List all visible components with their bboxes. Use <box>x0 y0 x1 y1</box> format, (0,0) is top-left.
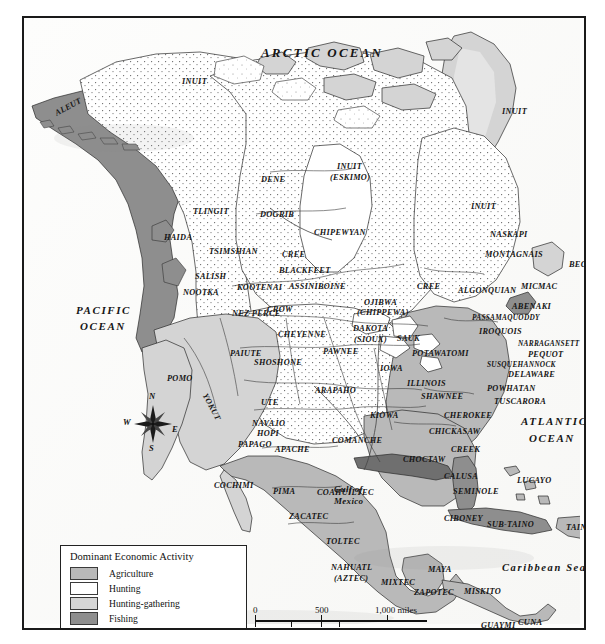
legend-label-hunting: Hunting <box>109 583 140 594</box>
legend-item-agriculture: Agriculture <box>70 566 246 580</box>
scale-km-tick-500: 500 <box>285 629 299 630</box>
scale-tick-km-500 <box>291 621 292 627</box>
compass-east-label: E <box>172 424 178 434</box>
scale-km-label: 1,000 kilometers <box>327 629 388 630</box>
scale-rule <box>255 620 427 622</box>
scale-tick-mi-1000 <box>387 615 388 621</box>
legend-swatch-agriculture <box>70 567 98 580</box>
legend-label-fishing: Fishing <box>109 613 138 624</box>
legend-label-hunting-gathering: Hunting-gathering <box>109 598 180 609</box>
legend-box: Dominant Economic Activity Agriculture H… <box>60 545 247 630</box>
scale-tick-mi-500 <box>321 615 322 627</box>
scale-bar: 0 500 1,000 miles 0 500 1,000 kilometers <box>253 605 443 630</box>
scale-tick-km-1000 <box>339 621 340 627</box>
map-graphic <box>24 18 580 624</box>
legend-title: Dominant Economic Activity <box>61 546 246 566</box>
scale-miles-tick-500: 500 <box>315 605 329 615</box>
legend-swatch-hunting-gathering <box>70 597 98 610</box>
scale-tick-mi-0 <box>255 615 256 627</box>
legend-swatch-fishing <box>70 612 98 625</box>
scale-km-tick-0: 0 <box>253 629 258 630</box>
legend-item-fishing: Fishing <box>70 611 246 625</box>
compass-rose: N S E W <box>124 396 182 452</box>
compass-south-label: S <box>149 443 154 453</box>
scale-miles-label: 1,000 miles <box>375 605 417 615</box>
compass-west-label: W <box>123 417 131 427</box>
legend-item-hunting-gathering: Hunting-gathering <box>70 596 246 610</box>
legend-label-agriculture: Agriculture <box>109 568 153 579</box>
legend-item-hunting: Hunting <box>70 581 246 595</box>
legend-swatch-hunting <box>70 582 98 595</box>
scale-miles-tick-0: 0 <box>253 605 258 615</box>
map-frame: ARCTIC OCEANPACIFICOCEANATLANTICOCEANCar… <box>22 16 586 630</box>
page-top-margin <box>0 0 605 14</box>
compass-north-label: N <box>149 391 155 401</box>
